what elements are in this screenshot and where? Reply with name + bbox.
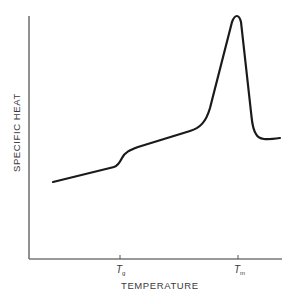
- x-axis-label: TEMPERATURE: [121, 280, 199, 291]
- tick-label-tg: Tg: [116, 264, 125, 276]
- y-axis-label: SPECIFIC HEAT: [11, 93, 22, 172]
- specific-heat-curve: [53, 16, 280, 182]
- chart-canvas: SPECIFIC HEAT Tg Tm TEMPERATURE: [0, 0, 298, 304]
- tick-label-tm: Tm: [234, 264, 245, 276]
